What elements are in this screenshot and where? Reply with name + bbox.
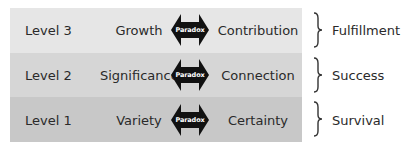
level-row-3: Level 3 Growth Paradox Contribution <box>10 8 302 53</box>
right-need: Certainty <box>214 112 302 127</box>
outcomes-column: Fulfillment Success Survival <box>312 8 405 142</box>
right-curly-brace-icon <box>312 101 324 137</box>
level-label: Level 3 <box>25 23 72 38</box>
level-label: Level 2 <box>25 68 72 83</box>
paradox-label: Paradox <box>171 116 209 124</box>
left-need: Significance <box>100 68 178 83</box>
level-row-1: Level 1 Variety Paradox Certainty <box>10 97 302 142</box>
left-need: Growth <box>100 23 178 38</box>
outcome-label: Success <box>332 68 384 83</box>
paradox-arrow: Paradox <box>171 59 209 91</box>
left-need: Variety <box>100 112 178 127</box>
right-need: Connection <box>214 68 302 83</box>
paradox-label: Paradox <box>171 26 209 34</box>
outcome-label: Fulfillment <box>332 23 400 38</box>
levels-table: Level 3 Growth Paradox Contribution Leve… <box>10 8 302 142</box>
right-curly-brace-icon <box>312 57 324 93</box>
level-label: Level 1 <box>25 112 72 127</box>
needs-levels-diagram: Level 3 Growth Paradox Contribution Leve… <box>0 0 405 150</box>
paradox-label: Paradox <box>171 71 209 79</box>
paradox-arrow: Paradox <box>171 104 209 136</box>
level-row-2: Level 2 Significance Paradox Connection <box>10 53 302 98</box>
outcome-row-2: Success <box>312 53 405 98</box>
outcome-label: Survival <box>332 112 384 127</box>
outcome-row-1: Survival <box>312 97 405 142</box>
outcome-row-3: Fulfillment <box>312 8 405 53</box>
right-curly-brace-icon <box>312 12 324 48</box>
right-need: Contribution <box>214 23 302 38</box>
paradox-arrow: Paradox <box>171 14 209 46</box>
